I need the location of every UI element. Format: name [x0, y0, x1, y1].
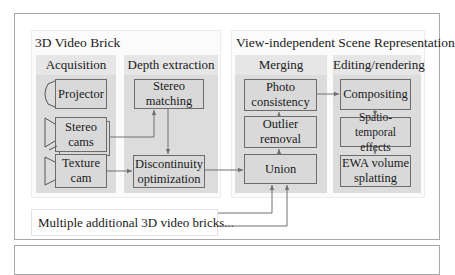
edge-note-to-union-1	[218, 185, 272, 213]
edge-stereo-cams-to-matching	[110, 110, 154, 137]
edge-note-to-union-2	[218, 185, 287, 226]
stereo-camera-icon	[45, 118, 55, 147]
texture-camera-icon	[45, 157, 55, 185]
projector-icon	[45, 81, 55, 107]
